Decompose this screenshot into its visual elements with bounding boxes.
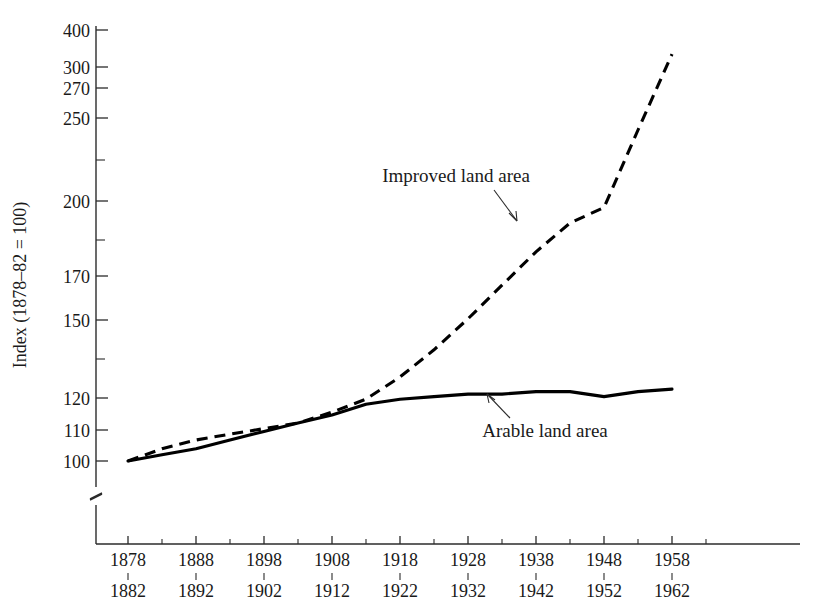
leader-line-improved xyxy=(494,190,517,221)
leader-line-arable xyxy=(487,394,510,418)
y-label-150: 150 xyxy=(63,311,90,331)
annotation-improved-land-area: Improved land area xyxy=(382,165,530,221)
axis-break-icon xyxy=(90,493,102,500)
x-label-1928: 1928 xyxy=(450,550,486,570)
x-label-1938: 1938 xyxy=(518,550,554,570)
y-tick-labels: 400 300 270 250 200 170 150 120 110 100 xyxy=(63,21,90,472)
x-label-1908: 1908 xyxy=(314,550,350,570)
y-label-120: 120 xyxy=(63,389,90,409)
x-tick-labels-top: 1878 1888 1898 1908 1918 1928 1938 1948 … xyxy=(110,550,690,570)
y-label-270: 270 xyxy=(63,79,90,99)
x-label-1958: 1958 xyxy=(654,550,690,570)
x-label-1888: 1888 xyxy=(178,550,214,570)
x-label-1892: 1892 xyxy=(178,581,214,601)
x-label-1952: 1952 xyxy=(586,581,622,601)
x-label-1912: 1912 xyxy=(314,581,350,601)
y-label-100: 100 xyxy=(63,452,90,472)
x-label-1902: 1902 xyxy=(246,581,282,601)
y-ticks-major xyxy=(96,30,108,461)
x-tick-labels-bottom: 1882 1892 1902 1912 1922 1932 1942 1952 … xyxy=(110,581,690,601)
y-ticks-minor xyxy=(96,160,105,359)
x-label-1882: 1882 xyxy=(110,581,146,601)
x-label-1898: 1898 xyxy=(246,550,282,570)
annotation-label-improved: Improved land area xyxy=(382,165,530,186)
chart-svg: 400 300 270 250 200 170 150 120 110 100 … xyxy=(0,0,814,609)
y-label-300: 300 xyxy=(63,58,90,78)
y-label-250: 250 xyxy=(63,109,90,129)
annotation-arable-land-area: Arable land area xyxy=(482,394,608,441)
x-ticks-minor xyxy=(162,539,706,544)
annotation-label-arable: Arable land area xyxy=(482,420,608,441)
x-label-1948: 1948 xyxy=(586,550,622,570)
x-label-1918: 1918 xyxy=(382,550,418,570)
y-label-200: 200 xyxy=(63,192,90,212)
y-label-110: 110 xyxy=(64,421,90,441)
x-label-1942: 1942 xyxy=(518,581,554,601)
y-label-170: 170 xyxy=(63,267,90,287)
x-ticks-major xyxy=(128,536,672,544)
y-axis-title: Index (1878–82 = 100) xyxy=(10,202,31,369)
x-label-1962: 1962 xyxy=(654,581,690,601)
y-label-400: 400 xyxy=(63,21,90,41)
x-pair-connectors xyxy=(128,573,672,580)
y-axis xyxy=(90,26,102,544)
x-label-1932: 1932 xyxy=(450,581,486,601)
x-label-1878: 1878 xyxy=(110,550,146,570)
x-label-1922: 1922 xyxy=(382,581,418,601)
chart-figure: 400 300 270 250 200 170 150 120 110 100 … xyxy=(0,0,814,609)
